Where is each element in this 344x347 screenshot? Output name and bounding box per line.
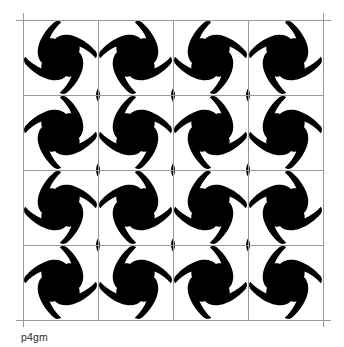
wallpaper-pattern-figure: p4gm [0, 0, 344, 347]
pattern-group-label: p4gm [21, 331, 48, 344]
wallpaper-pattern-canvas [0, 0, 344, 347]
